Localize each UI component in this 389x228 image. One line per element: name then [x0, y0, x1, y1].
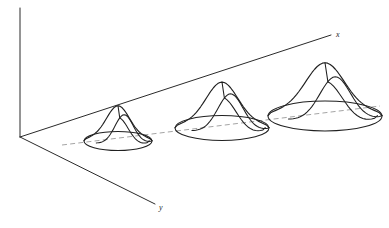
x-axis-label: x [335, 30, 340, 39]
gaussian-front-section [192, 94, 269, 131]
gaussian-outer-profile [175, 82, 269, 127]
figure-root: x y [0, 0, 389, 228]
y-axis [20, 137, 155, 204]
mean-dashed-line [62, 106, 380, 145]
gaussian-outer-profile [84, 106, 152, 141]
gaussian-surface-2 [175, 82, 269, 140]
gaussian-front-section [289, 77, 382, 119]
x-axis [20, 35, 331, 137]
gaussian-front-section [96, 115, 152, 143]
gaussian-surfaces-group [84, 63, 382, 151]
gaussian-surface-3 [268, 63, 382, 131]
gaussian-3d-diagram: x y [0, 0, 389, 228]
y-axis-label: y [158, 203, 163, 212]
